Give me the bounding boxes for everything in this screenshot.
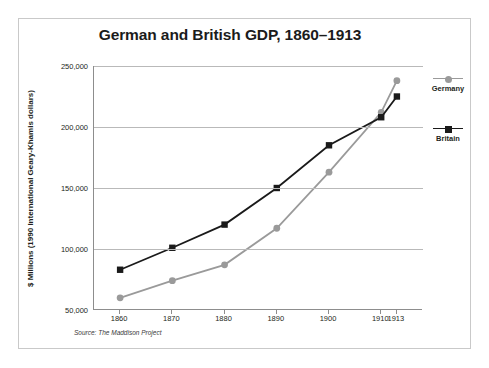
x-axis-tick-label: 1880 bbox=[215, 314, 232, 323]
data-point-germany-1880 bbox=[221, 261, 228, 268]
data-point-germany-1870 bbox=[169, 277, 176, 284]
gridline bbox=[94, 66, 423, 67]
data-point-germany-1890 bbox=[273, 225, 280, 232]
circle-marker-icon bbox=[445, 76, 452, 83]
data-point-britain-1900 bbox=[326, 142, 332, 148]
x-axis-tick-label: 1890 bbox=[267, 314, 284, 323]
legend-item-germany[interactable]: Germany bbox=[424, 74, 472, 93]
data-point-germany-1913 bbox=[393, 77, 400, 84]
data-point-britain-1910 bbox=[378, 114, 384, 120]
data-point-britain-1880 bbox=[221, 221, 227, 227]
data-point-germany-1900 bbox=[326, 169, 333, 176]
x-axis-tick-label: 1870 bbox=[163, 314, 180, 323]
source-note: Source: The Maddison Project bbox=[74, 329, 161, 336]
legend-label: Britain bbox=[424, 134, 472, 143]
gridline bbox=[94, 127, 423, 128]
legend-swatch-germany bbox=[433, 74, 463, 83]
y-axis-tick-label: 250,000 bbox=[30, 62, 88, 71]
data-point-britain-1913 bbox=[394, 93, 400, 99]
data-point-germany-1860 bbox=[117, 294, 124, 301]
series-line-germany bbox=[120, 81, 397, 298]
gridline bbox=[94, 249, 423, 250]
y-axis-tick-label: 50,000 bbox=[30, 306, 88, 315]
data-point-britain-1860 bbox=[117, 267, 123, 273]
x-axis-tick-label: 1900 bbox=[320, 314, 337, 323]
plot-area bbox=[93, 66, 422, 310]
page-title: German and British GDP, 1860–1913 bbox=[60, 26, 400, 44]
chart-page: German and British GDP, 1860–1913 $ Mill… bbox=[0, 0, 489, 368]
gridline bbox=[94, 188, 423, 189]
legend-item-britain[interactable]: Britain bbox=[424, 124, 472, 143]
y-axis-tick-label: 100,000 bbox=[30, 245, 88, 254]
legend-swatch-britain bbox=[433, 124, 463, 133]
y-axis-tick-label: 200,000 bbox=[30, 123, 88, 132]
x-axis-tick-label: 1913 bbox=[388, 314, 405, 323]
legend-label: Germany bbox=[424, 84, 472, 93]
x-axis-tick-label: 1860 bbox=[111, 314, 128, 323]
series-line-britain bbox=[120, 97, 397, 270]
square-marker-icon bbox=[445, 126, 452, 133]
data-point-britain-1870 bbox=[169, 245, 175, 251]
y-axis-tick-label: 150,000 bbox=[30, 184, 88, 193]
x-axis-tick-label: 1910 bbox=[372, 314, 389, 323]
